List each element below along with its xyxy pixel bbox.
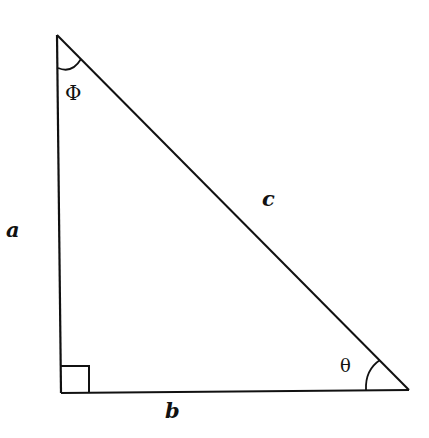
angle-arc-theta	[366, 360, 380, 390]
side-label-b: b	[165, 398, 180, 423]
side-a-line	[57, 35, 61, 393]
side-b-line	[61, 390, 409, 393]
side-label-a: a	[6, 217, 20, 242]
angle-label-phi: Φ	[65, 81, 81, 105]
side-c-line	[57, 35, 409, 390]
side-label-c: c	[262, 186, 275, 211]
right-angle-marker	[61, 366, 89, 393]
triangle-diagram: Φ θ a b c	[0, 0, 429, 438]
angle-arc-phi	[58, 59, 81, 70]
angle-label-theta: θ	[340, 355, 351, 376]
